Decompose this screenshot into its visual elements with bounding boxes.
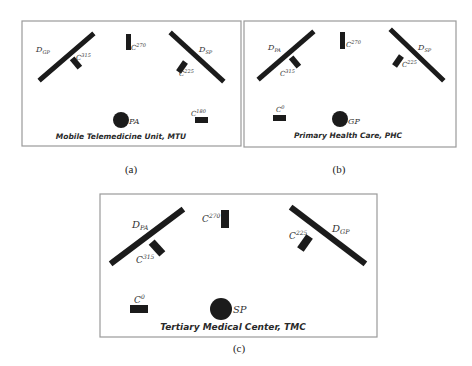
patient-node [332,111,348,127]
panel-b: DPA C315 C270 DSP C225 C0 GP Primary Hea… [244,21,456,147]
panel-c: DPA C315 C270 DGP C225 C0 SP Tertiary Me… [100,194,377,337]
camera-270 [221,210,229,228]
camera-0 [130,305,148,313]
patient-label: PA [128,117,140,126]
panel-a: DGP C315 C270 DSP C225 PA C180 Mobile Te… [22,21,241,146]
camera-270 [340,32,345,49]
panel-a-caption: (a) [125,163,138,176]
panel-b-caption: (b) [333,163,346,176]
patient-node [113,112,129,128]
panel-a-title: Mobile Telemedicine Unit, MTU [56,132,186,141]
telemedicine-layout-figure: DGP C315 C270 DSP C225 PA C180 Mobile Te… [0,0,472,366]
patient-node [210,298,232,320]
camera-180 [195,117,208,123]
panel-c-frame [100,194,377,337]
panel-b-title: Primary Health Care, PHC [294,131,403,140]
panel-c-caption: (c) [233,342,246,355]
patient-label: GP [348,117,360,126]
panel-c-title: Tertiary Medical Center, TMC [160,322,306,332]
camera-0 [273,115,286,121]
panel-b-frame [244,21,456,147]
panel-a-frame [22,21,241,146]
patient-label: SP [233,304,247,315]
